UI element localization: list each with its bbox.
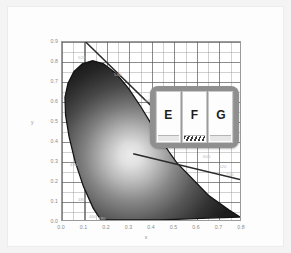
x-tick: 0.1	[80, 224, 88, 230]
screenshot-root: 520 540 560 500 580 490 600 620 700 480 …	[0, 0, 291, 253]
x-tick: 0.5	[170, 224, 178, 230]
y-axis-label: y	[31, 119, 34, 125]
panel-cell-e-shelf	[158, 135, 179, 141]
wavelength-label: 700	[226, 172, 233, 177]
y-tick: 0.1	[50, 198, 58, 204]
x-tick: 0.6	[192, 224, 200, 230]
panel-cell-g[interactable]: G	[208, 91, 233, 143]
x-tick: 0.7	[215, 224, 223, 230]
wavelength-label: 520	[78, 55, 85, 60]
figure-card: 520 540 560 500 580 490 600 620 700 480 …	[8, 7, 283, 246]
wavelength-label: 540	[114, 72, 121, 77]
x-tick: 0.0	[57, 224, 65, 230]
wavelength-label: 620	[219, 164, 226, 169]
efg-panel[interactable]: E F G	[150, 86, 239, 148]
panel-cell-f-shelf-hatched	[184, 135, 205, 141]
x-tick: 0.3	[125, 224, 133, 230]
efg-panel-inner: E F G	[155, 91, 234, 143]
wavelength-label: 600	[203, 154, 210, 159]
y-tick: 0.8	[50, 58, 58, 64]
y-tick: 0.2	[50, 178, 58, 184]
x-axis-label: x	[20, 234, 272, 240]
x-tick: 0.4	[147, 224, 155, 230]
y-tick: 0.6	[50, 98, 58, 104]
wavelength-label: 460	[89, 214, 96, 219]
y-tick: 0.9	[50, 38, 58, 44]
y-tick: 0.7	[50, 78, 58, 84]
panel-cell-g-shelf	[210, 135, 231, 141]
panel-cell-g-label: G	[216, 109, 225, 121]
panel-cell-e-label: E	[164, 109, 172, 121]
x-axis-ticks: 0.0 0.1 0.2 0.3 0.4 0.5 0.6 0.7 0.8	[61, 224, 241, 234]
wavelength-label: 480	[78, 197, 85, 202]
y-tick: 0.5	[50, 118, 58, 124]
x-tick: 0.2	[102, 224, 110, 230]
panel-cell-f[interactable]: F	[182, 91, 207, 143]
wavelength-label: 490	[70, 162, 77, 167]
y-axis-ticks: 0.9 0.8 0.7 0.6 0.5 0.4 0.3 0.2 0.1 0.0	[34, 41, 58, 221]
panel-cell-e[interactable]: E	[156, 91, 181, 143]
x-tick: 0.8	[237, 224, 245, 230]
y-tick: 0.3	[50, 158, 58, 164]
wavelength-label: 380	[98, 216, 105, 221]
panel-cell-f-label: F	[191, 109, 198, 121]
y-tick: 0.4	[50, 138, 58, 144]
